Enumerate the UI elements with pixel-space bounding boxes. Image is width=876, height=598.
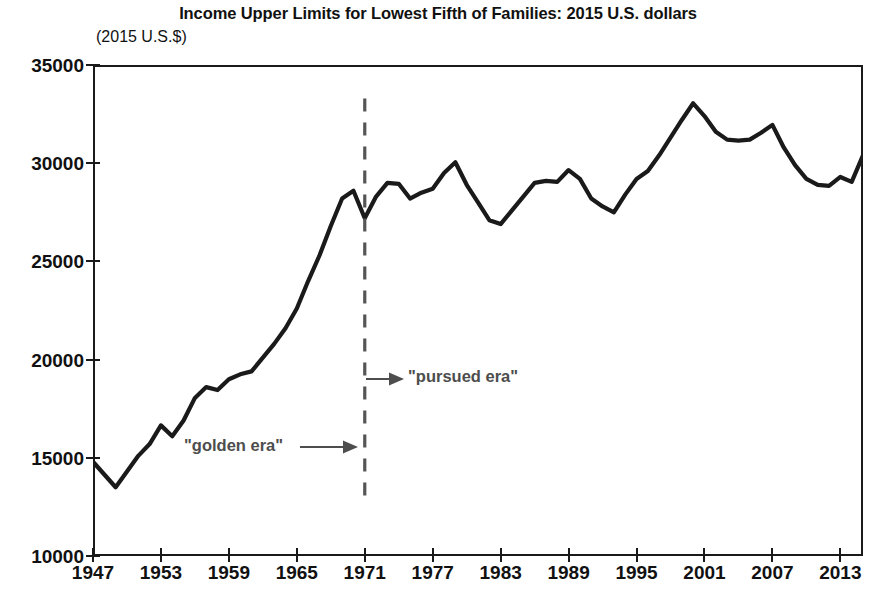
x-tick-mark <box>296 548 298 562</box>
y-tick-mark <box>86 64 100 66</box>
x-tick-mark <box>771 548 773 562</box>
x-tick-mark <box>839 548 841 562</box>
chart-figure: Income Upper Limits for Lowest Fifth of … <box>0 0 876 598</box>
x-tick-label: 2013 <box>800 562 876 584</box>
x-tick-mark <box>703 548 705 562</box>
y-tick-mark <box>86 457 100 459</box>
y-tick-mark <box>86 260 100 262</box>
x-tick-mark <box>92 548 94 562</box>
y-tick-mark <box>86 162 100 164</box>
x-tick-mark <box>500 548 502 562</box>
y-tick-mark <box>86 359 100 361</box>
x-tick-mark <box>364 548 366 562</box>
x-tick-mark <box>160 548 162 562</box>
x-tick-mark <box>228 548 230 562</box>
x-tick-mark <box>432 548 434 562</box>
x-tick-mark <box>636 548 638 562</box>
x-tick-mark <box>568 548 570 562</box>
